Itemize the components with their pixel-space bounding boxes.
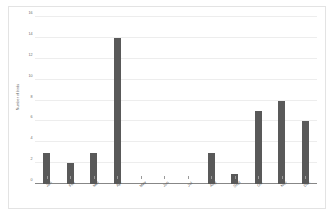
x-label-slot: Mar bbox=[82, 181, 106, 199]
bar[interactable] bbox=[278, 101, 285, 185]
bar[interactable] bbox=[302, 121, 309, 184]
bar-slot bbox=[82, 17, 106, 184]
x-axis-label: Aug bbox=[209, 180, 218, 188]
y-axis-title: Number of birds bbox=[16, 57, 20, 137]
y-tick-label: 4 bbox=[30, 136, 32, 140]
bar-slot bbox=[270, 17, 294, 184]
bar-slot bbox=[223, 17, 247, 184]
x-tick-mark bbox=[270, 176, 294, 179]
x-label-slot: Feb bbox=[59, 181, 83, 199]
plot-area: 0246810121416 bbox=[35, 17, 317, 184]
x-label-slot: Jan bbox=[35, 181, 59, 199]
y-tick-label: 2 bbox=[30, 157, 32, 161]
x-axis-tick-marks bbox=[35, 176, 317, 179]
bar-slot bbox=[106, 17, 130, 184]
y-tick-label: 8 bbox=[30, 95, 32, 99]
bar-slot bbox=[153, 17, 177, 184]
x-axis-label: Feb bbox=[68, 180, 76, 188]
x-axis-label: Nov bbox=[279, 180, 287, 188]
x-tick-mark bbox=[176, 176, 200, 179]
x-label-slot: Sept bbox=[223, 181, 247, 199]
y-tick-label: 16 bbox=[28, 11, 32, 15]
bar-slot bbox=[247, 17, 271, 184]
x-tick-mark bbox=[223, 176, 247, 179]
x-tick-mark bbox=[294, 176, 318, 179]
x-axis-label: Mar bbox=[91, 180, 99, 188]
x-label-slot: Dec bbox=[294, 181, 318, 199]
x-axis-label: Jun bbox=[162, 180, 170, 188]
x-axis-label: Sept bbox=[232, 179, 241, 188]
y-tick-label: 10 bbox=[28, 74, 32, 78]
x-label-slot: Apr bbox=[106, 181, 130, 199]
x-axis-label: Dec bbox=[303, 180, 311, 188]
x-tick-mark bbox=[82, 176, 106, 179]
bar-slot bbox=[129, 17, 153, 184]
x-label-slot: Jun bbox=[153, 181, 177, 199]
x-label-slot: Aug bbox=[200, 181, 224, 199]
y-tick-label: 12 bbox=[28, 53, 32, 57]
bar-series bbox=[35, 17, 317, 184]
x-label-slot: Oct bbox=[247, 181, 271, 199]
bar-slot bbox=[176, 17, 200, 184]
x-label-slot: Nov bbox=[270, 181, 294, 199]
bar[interactable] bbox=[114, 38, 121, 184]
x-label-slot: May bbox=[129, 181, 153, 199]
y-tick-label: 0 bbox=[30, 178, 32, 182]
x-tick-mark bbox=[129, 176, 153, 179]
x-axis-label: Jul bbox=[186, 180, 193, 187]
y-tick-label: 6 bbox=[30, 115, 32, 119]
x-tick-mark bbox=[35, 176, 59, 179]
bar-slot bbox=[200, 17, 224, 184]
y-tick-label: 14 bbox=[28, 32, 32, 36]
x-axis-label: May bbox=[138, 180, 147, 189]
bar-slot bbox=[35, 17, 59, 184]
x-tick-mark bbox=[106, 176, 130, 179]
x-axis-label: Apr bbox=[115, 180, 123, 188]
x-tick-mark bbox=[153, 176, 177, 179]
x-axis-label: Oct bbox=[256, 180, 264, 188]
x-tick-mark bbox=[200, 176, 224, 179]
x-tick-mark bbox=[59, 176, 83, 179]
bar[interactable] bbox=[255, 111, 262, 184]
x-tick-mark bbox=[247, 176, 271, 179]
bar-chart-figure: Number of birds 0246810121416 JanFebMarA… bbox=[8, 6, 326, 209]
x-label-slot: Jul bbox=[176, 181, 200, 199]
bar-slot bbox=[294, 17, 318, 184]
x-axis-tick-labels: JanFebMarAprMayJunJulAugSeptOctNovDec bbox=[35, 181, 317, 199]
bar-slot bbox=[59, 17, 83, 184]
x-axis-label: Jan bbox=[44, 180, 52, 188]
